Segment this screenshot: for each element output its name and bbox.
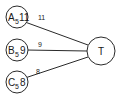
- node-c-value: 8: [20, 77, 26, 88]
- edge-label-a-t: 11: [38, 14, 45, 21]
- diagram-canvas: 11 9 8 A 5 11 B 5 9 C 5 8 T: [0, 0, 122, 105]
- node-a-value: 11: [19, 12, 30, 23]
- node-t-label: T: [98, 46, 104, 57]
- node-c: C 5 8: [6, 71, 28, 93]
- node-b-subscript: 5: [15, 51, 19, 58]
- node-a: A 5 11: [6, 6, 30, 28]
- edge-c-t: [25, 57, 88, 78]
- node-b-letter: B: [8, 45, 15, 56]
- edge-a-t: [25, 22, 88, 45]
- edge-label-b-t: 9: [38, 41, 42, 48]
- node-a-letter: A: [8, 12, 15, 23]
- node-b: B 5 9: [6, 39, 28, 61]
- node-t: T: [87, 37, 115, 65]
- node-c-subscript: 5: [15, 83, 19, 90]
- edge-label-c-t: 8: [36, 68, 40, 75]
- node-b-value: 9: [20, 45, 26, 56]
- edge-b-t: [26, 50, 87, 51]
